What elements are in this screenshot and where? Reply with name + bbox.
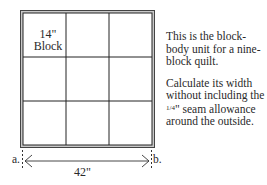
paragraph-2-text-end: " seam allowance around the outside. [166, 103, 256, 128]
width-dimension-label: 42" [74, 166, 91, 179]
point-b-label: b. [153, 153, 162, 166]
point-a-label: a. [12, 153, 20, 166]
block-size-label: 14" Block [31, 28, 65, 52]
description-paragraph-1: This is the block-body unit for a nine-b… [166, 30, 266, 68]
seam-fraction: 1/4 [166, 104, 175, 112]
description: This is the block-body unit for a nine-b… [166, 30, 266, 137]
block-size-caption: Block [31, 40, 65, 52]
paragraph-2-text-start: Calculate its width without including th… [166, 77, 264, 102]
description-paragraph-2: Calculate its width without including th… [166, 77, 266, 128]
